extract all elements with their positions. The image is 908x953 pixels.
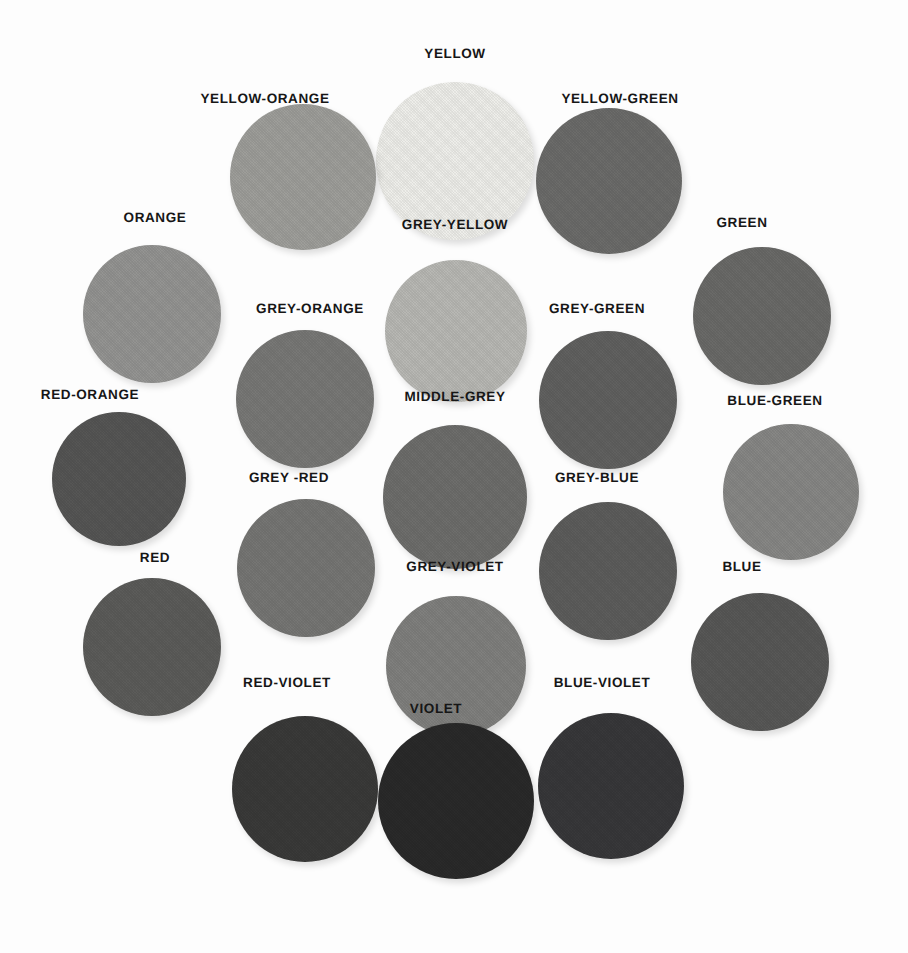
swatch-label-red: RED <box>140 550 170 565</box>
swatch-disc-green <box>693 247 831 385</box>
swatch-label-violet: VIOLET <box>410 701 462 716</box>
swatch-label-blue: BLUE <box>722 559 761 574</box>
swatch-disc-red-violet <box>232 716 378 862</box>
colour-value-chart: YELLOWYELLOW-ORANGEYELLOW-GREENORANGEGRE… <box>0 0 908 953</box>
swatch-label-grey-green: GREY-GREEN <box>549 301 645 316</box>
swatch-disc-red <box>83 578 221 716</box>
swatch-disc-grey-orange <box>236 330 374 468</box>
swatch-label-yellow-orange: YELLOW-ORANGE <box>200 91 329 106</box>
swatch-disc-grey-yellow <box>385 260 527 402</box>
swatch-disc-grey-blue <box>539 502 677 640</box>
swatch-label-red-violet: RED-VIOLET <box>243 675 331 690</box>
swatch-disc-blue-violet <box>538 713 684 859</box>
swatch-label-blue-violet: BLUE-VIOLET <box>554 675 651 690</box>
swatch-label-middle-grey: MIDDLE-GREY <box>404 389 505 404</box>
swatch-disc-grey-green <box>539 331 677 469</box>
swatch-label-green: GREEN <box>716 215 767 230</box>
swatch-disc-yellow-orange <box>230 104 376 250</box>
swatch-label-grey-yellow: GREY-YELLOW <box>402 217 508 232</box>
swatch-disc-violet <box>378 723 534 879</box>
swatch-label-grey-orange: GREY-ORANGE <box>256 301 364 316</box>
swatch-label-grey-blue: GREY-BLUE <box>555 470 639 485</box>
swatch-disc-middle-grey <box>383 425 527 569</box>
swatch-label-grey-red: GREY -RED <box>249 470 329 485</box>
swatch-disc-orange <box>83 245 221 383</box>
swatch-disc-red-orange <box>52 412 186 546</box>
swatch-label-blue-green: BLUE-GREEN <box>727 393 822 408</box>
swatch-label-red-orange: RED-ORANGE <box>41 387 139 402</box>
swatch-disc-yellow-green <box>536 108 682 254</box>
swatch-disc-blue-green <box>723 424 859 560</box>
swatch-label-orange: ORANGE <box>124 210 187 225</box>
swatch-label-grey-violet: GREY-VIOLET <box>406 559 503 574</box>
swatch-label-yellow-green: YELLOW-GREEN <box>561 91 678 106</box>
swatch-disc-blue <box>691 593 829 731</box>
swatch-disc-grey-red <box>237 499 375 637</box>
swatch-label-yellow: YELLOW <box>424 46 485 61</box>
